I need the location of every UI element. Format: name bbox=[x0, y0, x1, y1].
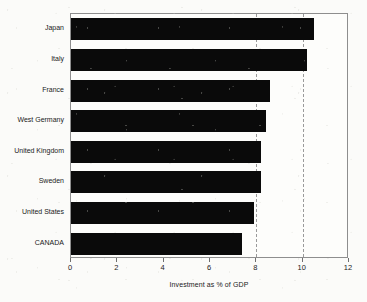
x-tick-mark bbox=[209, 258, 210, 262]
x-tick-mark bbox=[163, 258, 164, 262]
bar bbox=[71, 18, 314, 40]
bar-chart-figure: JapanItalyFranceWest GermanyUnited Kingd… bbox=[0, 0, 367, 302]
x-tick-label: 6 bbox=[194, 264, 224, 272]
x-tick-mark bbox=[116, 258, 117, 262]
category-label: Japan bbox=[0, 24, 64, 31]
category-label: Italy bbox=[0, 55, 64, 62]
bar bbox=[71, 141, 261, 163]
category-label: Sweden bbox=[0, 177, 64, 184]
x-tick-label: 0 bbox=[55, 264, 85, 272]
bar bbox=[71, 80, 270, 102]
category-label: West Germany bbox=[0, 116, 64, 123]
category-label: France bbox=[0, 86, 64, 93]
bar bbox=[71, 49, 307, 71]
x-tick-label: 4 bbox=[148, 264, 178, 272]
x-tick-mark bbox=[70, 258, 71, 262]
x-tick-label: 8 bbox=[240, 264, 270, 272]
category-label: United Kingdom bbox=[0, 147, 64, 154]
category-label: CANADA bbox=[0, 239, 64, 246]
x-tick-mark bbox=[348, 258, 349, 262]
x-tick-label: 12 bbox=[333, 264, 363, 272]
x-axis-title: Investment as % of GDP bbox=[70, 281, 348, 288]
x-tick-label: 10 bbox=[287, 264, 317, 272]
x-tick-mark bbox=[255, 258, 256, 262]
bar bbox=[71, 202, 254, 224]
x-tick-mark bbox=[302, 258, 303, 262]
category-label: United States bbox=[0, 208, 64, 215]
bar bbox=[71, 233, 242, 255]
plot-area bbox=[70, 13, 348, 258]
bar bbox=[71, 171, 261, 193]
bar bbox=[71, 110, 266, 132]
x-tick-label: 2 bbox=[101, 264, 131, 272]
